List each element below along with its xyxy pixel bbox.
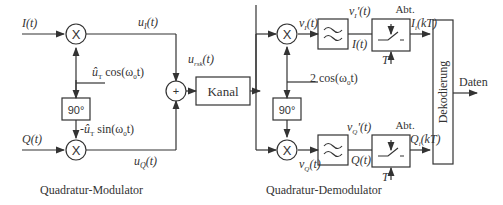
v-i-label: vI(t) bbox=[299, 16, 318, 32]
v-q-label: vQ(t) bbox=[299, 157, 321, 173]
q-t-label: Q(t) bbox=[351, 153, 371, 167]
i-kt-label: Ii(kT) bbox=[410, 16, 437, 32]
v-q-prime-label: vQ'(t) bbox=[347, 120, 371, 136]
mixer-symbol: X bbox=[72, 143, 81, 158]
lowpass-filter-q bbox=[318, 135, 348, 165]
u-q-label: uQ(t) bbox=[134, 154, 157, 170]
sample-period-label: T bbox=[382, 53, 390, 67]
demod-carrier-label: 2 cos(ω0t) bbox=[310, 71, 358, 87]
q-kt-label: Qi(kT) bbox=[410, 132, 441, 148]
mixer-symbol: X bbox=[283, 27, 292, 42]
sampler-i bbox=[372, 19, 410, 51]
lowpass-filter-i bbox=[318, 19, 348, 49]
input-q-label: Q(t) bbox=[22, 132, 42, 146]
adder-symbol: + bbox=[173, 85, 179, 97]
demodulator-caption: Quadratur-Demodulator bbox=[266, 183, 382, 197]
phase-shift-label: 90° bbox=[279, 104, 296, 116]
i-t-label: I(t) bbox=[351, 37, 367, 51]
u-i-label: uI(t) bbox=[138, 15, 158, 31]
decoder-label: Dekodierung bbox=[436, 61, 450, 124]
channel-label: Kanal bbox=[207, 84, 238, 99]
input-i-label: I(t) bbox=[21, 16, 37, 30]
lowpass-icon bbox=[324, 144, 342, 157]
block-diagram: X X + X X 90° 90° Kanal Abt. Abt. I(t) Q… bbox=[0, 0, 503, 205]
output-label: Daten bbox=[459, 75, 488, 89]
v-i-prime-label: vI'(t) bbox=[349, 4, 371, 20]
carrier-sin-label: -ûT sin(ω0t) bbox=[80, 122, 134, 138]
sampler-label: Abt. bbox=[395, 119, 415, 131]
carrier-cos-label: ûT cos(ω0t) bbox=[92, 65, 144, 81]
sum-signal-label: ursk(t) bbox=[188, 52, 214, 68]
sampler-q bbox=[372, 135, 410, 167]
sampler-label: Abt. bbox=[395, 3, 415, 15]
sample-period-label: T bbox=[382, 170, 390, 184]
modulator-caption: Quadratur-Modulator bbox=[40, 183, 143, 197]
mixer-symbol: X bbox=[283, 143, 292, 158]
mixer-symbol: X bbox=[72, 27, 81, 42]
lowpass-icon bbox=[324, 28, 342, 41]
phase-shift-label: 90° bbox=[68, 104, 85, 116]
